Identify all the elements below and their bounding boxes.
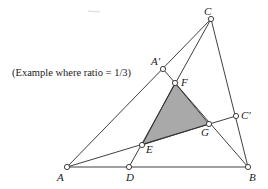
point-b [245, 164, 250, 169]
scan-artifact [88, 11, 100, 12]
point-c [208, 16, 213, 21]
point-f [172, 80, 177, 85]
label-c: C [204, 5, 212, 17]
point-e [139, 142, 144, 147]
label-a-prime: A′ [150, 55, 161, 67]
label-c-prime: C′ [241, 109, 251, 121]
label-g: G [201, 126, 209, 138]
triangle-diagram: A B C D A′ C′ E F G (Example where ratio… [0, 0, 268, 189]
label-a: A [56, 171, 64, 183]
label-b: B [249, 171, 256, 183]
point-a [64, 164, 69, 169]
label-f: F [180, 76, 188, 88]
shaded-triangle-efg [142, 83, 209, 145]
segment-bc [211, 19, 248, 167]
point-a-prime [160, 66, 165, 71]
label-d: D [125, 171, 134, 183]
point-d [126, 164, 131, 169]
label-e: E [145, 143, 153, 155]
figure-caption: (Example where ratio = 1/3) [12, 67, 132, 79]
point-c-prime [233, 113, 238, 118]
